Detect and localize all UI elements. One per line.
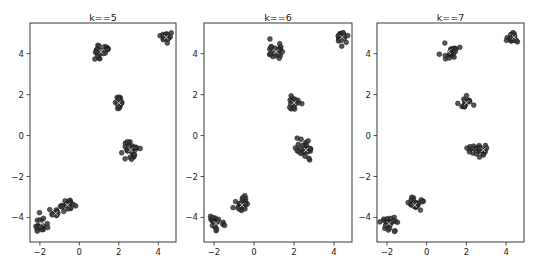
data-point [481,153,486,158]
x-tick-label: 2 [464,247,469,257]
scatter-points [34,30,174,233]
y-tick-label: 2 [193,90,198,100]
x-tick-label: 4 [331,247,336,257]
data-point [392,229,397,234]
y-tick-label: 4 [19,49,24,59]
cluster [47,207,60,218]
data-point [280,49,285,54]
data-point [123,156,128,161]
data-point [299,137,304,142]
data-point [133,145,138,150]
data-point [339,44,344,49]
scatter-points [208,30,350,233]
x-tick-label: 2 [291,247,296,257]
data-point [473,146,478,151]
data-point [92,57,97,62]
y-tick-label: 2 [366,90,371,100]
cluster [92,43,110,62]
data-point [94,50,99,55]
x-tick-label: −2 [381,247,394,257]
y-tick-label: −4 [358,212,371,222]
data-point [214,227,219,232]
y-tick-label: 0 [366,131,371,141]
subplot-k7: k==7 −2024−4−2024 [358,12,524,257]
scatter-points [377,30,519,234]
y-tick-label: −4 [185,212,198,222]
y-tick-label: −2 [11,172,24,182]
cluster [336,30,350,48]
cluster [113,95,124,111]
cluster [437,41,462,62]
data-point [129,157,134,162]
data-point [60,205,65,210]
data-point [210,215,215,220]
subplot-title: k==6 [264,12,291,23]
cluster [158,30,174,45]
x-tick-label: 0 [77,247,82,257]
y-tick-label: 0 [19,131,24,141]
data-point [47,207,52,212]
x-tick-label: −2 [34,247,47,257]
cluster [267,37,285,61]
data-point [395,220,400,225]
y-tick-label: −2 [358,172,371,182]
cluster [208,214,227,233]
cluster [504,30,520,44]
data-point [409,198,414,203]
x-tick-label: −2 [208,247,221,257]
data-point [442,41,447,46]
x-tick-label: 4 [503,247,508,257]
data-point [296,142,301,147]
data-point [243,206,248,211]
figure: k==5 −2024−4−2024 k==6 −2024−4−2024 k==7… [0,0,537,267]
cluster [406,195,426,213]
subplot-k6: k==6 −2024−4−2024 [185,12,352,257]
subplot-title: k==5 [89,12,116,23]
data-point [377,220,382,225]
data-point [288,101,293,106]
x-tick-label: 2 [116,247,121,257]
data-point [515,39,520,44]
y-tick-label: 4 [366,49,371,59]
data-point [306,138,311,143]
x-tick-label: 0 [251,247,256,257]
cluster [293,136,313,163]
data-point [437,52,442,57]
data-point [418,208,423,213]
data-point [467,149,472,154]
data-point [37,210,42,215]
data-point [453,49,458,54]
x-tick-label: 0 [424,247,429,257]
cluster [287,93,304,111]
data-point [420,199,425,204]
data-point [41,216,46,221]
data-point [241,195,246,200]
data-point [222,223,227,228]
data-point [341,30,346,35]
cluster [58,198,78,214]
y-tick-label: 2 [19,90,24,100]
data-point [216,217,221,222]
y-tick-label: 4 [193,49,198,59]
data-point [125,139,130,144]
x-tick-label: 4 [156,247,161,257]
data-point [231,205,236,210]
y-tick-label: −2 [185,172,198,182]
data-point [471,103,476,108]
cluster [34,210,50,233]
data-point [300,143,305,148]
cluster [231,193,250,213]
data-point [443,53,448,58]
data-point [504,38,509,43]
data-point [297,150,302,155]
cluster [455,93,476,109]
subplot-title: k==7 [437,12,464,23]
data-point [388,216,393,221]
subplot-k5: k==5 −2024−4−2024 [11,12,176,257]
data-point [269,44,274,49]
data-point [268,37,273,42]
y-tick-label: 0 [193,131,198,141]
data-point [71,202,76,207]
data-point [97,44,102,49]
data-point [45,225,50,230]
